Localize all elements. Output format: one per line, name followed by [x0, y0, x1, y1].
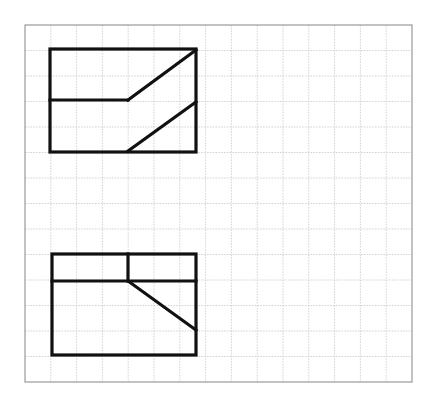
orthographic-drawing: [0, 0, 428, 397]
drawing-canvas: [0, 0, 428, 397]
